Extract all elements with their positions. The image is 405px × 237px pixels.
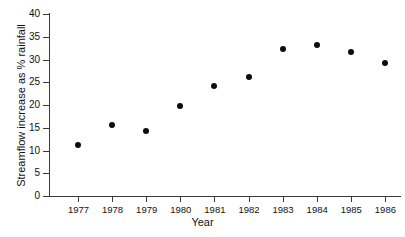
x-tick: 1983 xyxy=(283,196,284,202)
data-point xyxy=(314,42,320,48)
x-axis-title: Year xyxy=(0,216,405,228)
x-tick: 1980 xyxy=(180,196,181,202)
x-tick-label: 1984 xyxy=(307,204,328,215)
x-tick: 1986 xyxy=(385,196,386,202)
x-tick-label: 1981 xyxy=(204,204,225,215)
data-point xyxy=(246,74,252,80)
x-tick-label: 1978 xyxy=(102,204,123,215)
y-tick-label: 30 xyxy=(29,54,40,65)
x-tick: 1979 xyxy=(146,196,147,202)
y-tick-label: 5 xyxy=(34,167,40,178)
x-tick: 1985 xyxy=(351,196,352,202)
y-tick: 35 xyxy=(43,37,49,38)
x-tick-label: 1977 xyxy=(68,204,89,215)
x-tick-label: 1982 xyxy=(238,204,259,215)
x-tick: 1977 xyxy=(78,196,79,202)
y-tick-label: 25 xyxy=(29,76,40,87)
x-tick: 1982 xyxy=(249,196,250,202)
y-tick: 10 xyxy=(43,151,49,152)
y-axis-title: Streamflow increase as % rainfall xyxy=(16,6,27,206)
y-tick-label: 15 xyxy=(29,122,40,133)
y-tick: 0 xyxy=(43,196,49,197)
data-point xyxy=(75,142,81,148)
y-tick-label: 20 xyxy=(29,99,40,110)
y-tick: 15 xyxy=(43,128,49,129)
x-tick-label: 1980 xyxy=(170,204,191,215)
y-axis-line xyxy=(49,13,50,197)
y-tick: 5 xyxy=(43,173,49,174)
data-point xyxy=(348,49,354,55)
y-tick: 30 xyxy=(43,60,49,61)
y-tick-label: 35 xyxy=(29,31,40,42)
x-tick-label: 1979 xyxy=(136,204,157,215)
data-point xyxy=(280,46,286,52)
y-tick: 20 xyxy=(43,105,49,106)
y-tick-label: 40 xyxy=(29,8,40,19)
data-point xyxy=(143,128,149,134)
data-point xyxy=(177,103,183,109)
data-point xyxy=(211,83,217,89)
scatter-chart: Streamflow increase as % rainfall 051015… xyxy=(0,0,405,237)
data-point xyxy=(109,122,115,128)
y-tick-label: 10 xyxy=(29,145,40,156)
y-tick: 25 xyxy=(43,82,49,83)
x-tick: 1981 xyxy=(214,196,215,202)
x-tick-label: 1985 xyxy=(341,204,362,215)
y-tick-label: 0 xyxy=(34,190,40,201)
x-tick: 1984 xyxy=(317,196,318,202)
x-tick-label: 1983 xyxy=(273,204,294,215)
x-axis-line xyxy=(49,196,401,197)
x-tick: 1978 xyxy=(112,196,113,202)
y-tick: 40 xyxy=(43,14,49,15)
x-tick-label: 1986 xyxy=(375,204,396,215)
data-point xyxy=(382,60,388,66)
